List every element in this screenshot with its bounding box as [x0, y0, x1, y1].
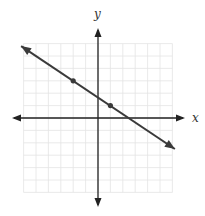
y-axis-label: y: [93, 7, 101, 21]
x-axis-right-arrow-icon: [176, 115, 185, 122]
data-point: [108, 103, 113, 108]
x-axis-left-arrow-icon: [12, 115, 21, 122]
y-axis-up-arrow-icon: [95, 28, 102, 37]
line-end-arrow-icon: [164, 140, 175, 149]
line-start-arrow-icon: [21, 46, 32, 55]
x-axis-label: x: [192, 111, 199, 125]
y-axis-down-arrow-icon: [95, 198, 102, 207]
coordinate-plane: x y: [0, 0, 205, 216]
data-point: [71, 78, 76, 83]
axes: x y: [12, 7, 199, 207]
